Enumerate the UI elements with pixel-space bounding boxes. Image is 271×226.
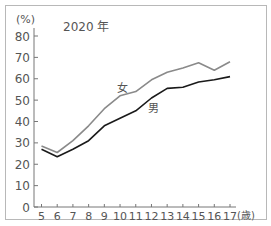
chart-title: 2020 年: [63, 20, 109, 34]
series-line-female: [42, 62, 231, 153]
y-tick-label: 70: [15, 51, 30, 65]
y-tick-label: 20: [15, 158, 30, 172]
x-tick-label: 5: [38, 210, 45, 223]
x-tick-label: 9: [101, 210, 108, 223]
ticks: 01020304050607080567891011121314151617: [15, 30, 237, 224]
series-label-female: 女: [117, 81, 128, 95]
x-tick-label: 10: [113, 210, 127, 223]
x-tick-label: 13: [160, 210, 174, 223]
x-tick-label: 17: [223, 210, 237, 223]
x-tick-label: 6: [54, 210, 61, 223]
x-tick-label: 12: [144, 210, 158, 223]
x-tick-label: 7: [69, 210, 76, 223]
y-tick-label: 40: [15, 115, 30, 129]
series-lines: [42, 62, 231, 157]
line-chart: 01020304050607080567891011121314151617 (…: [0, 0, 271, 226]
x-axis-label: (歳): [237, 210, 255, 221]
y-tick-label: 10: [15, 179, 30, 193]
x-tick-label: 15: [192, 210, 206, 223]
x-tick-label: 14: [176, 210, 190, 223]
y-axis-label: (%): [16, 13, 35, 26]
y-tick-label: 0: [22, 201, 30, 215]
axes: [34, 28, 236, 207]
series-label-male: 男: [148, 102, 159, 115]
y-tick-label: 30: [15, 136, 30, 150]
y-tick-label: 80: [15, 30, 30, 44]
x-tick-label: 11: [129, 210, 143, 223]
x-tick-label: 16: [207, 210, 221, 223]
y-tick-label: 60: [15, 72, 30, 86]
x-tick-label: 8: [85, 210, 92, 223]
y-tick-label: 50: [15, 94, 30, 108]
series-line-male: [42, 77, 231, 157]
